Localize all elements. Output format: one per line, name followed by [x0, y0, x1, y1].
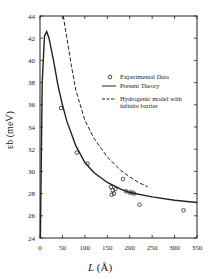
y-tick-label: 26	[28, 212, 36, 220]
x-tick-label: 150	[102, 244, 113, 252]
data-point	[138, 203, 142, 207]
plot-area	[40, 16, 197, 238]
y-tick-label: 40	[28, 57, 36, 65]
x-tick-label: 100	[80, 244, 91, 252]
y-tick-label: 28	[28, 190, 36, 198]
x-tick-label: 200	[124, 244, 135, 252]
y-axis-label: εb (meV)	[4, 111, 16, 149]
x-tick-label: 250	[147, 244, 158, 252]
x-tick-label: 50	[59, 244, 67, 252]
legend-theory: Present Theory	[120, 82, 160, 89]
y-tick-label: 32	[28, 146, 36, 154]
y-tick-label: 34	[28, 124, 36, 132]
y-tick-label: 24	[28, 235, 36, 243]
chart: 0501001502002503003502426283032343638404…	[0, 0, 212, 279]
legend: Experimental Data Present Theory Hydroge…	[102, 73, 182, 109]
x-tick-label: 350	[192, 244, 203, 252]
axes: 0501001502002503003502426283032343638404…	[28, 13, 203, 253]
data-point	[182, 208, 186, 212]
legend-marker-circle	[108, 75, 112, 79]
x-tick-label: 300	[169, 244, 180, 252]
y-tick-label: 30	[28, 168, 36, 176]
x-axis-label: L (Å)	[87, 261, 112, 274]
x-tick-label: 0	[38, 244, 42, 252]
present-theory-line	[40, 32, 197, 239]
y-tick-label: 44	[28, 13, 36, 21]
y-tick-label: 36	[28, 101, 36, 109]
legend-exp: Experimental Data	[120, 73, 169, 80]
plot-frame	[40, 16, 197, 238]
legend-hydro-2: infinite barrier	[120, 102, 159, 109]
y-tick-label: 38	[28, 79, 36, 87]
y-tick-label: 42	[28, 35, 36, 43]
data-point	[121, 177, 125, 181]
legend-hydro-1: Hydrogenic model with	[120, 95, 182, 102]
